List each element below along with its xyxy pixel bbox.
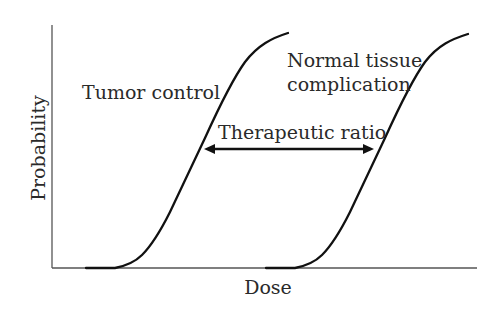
therapeutic-ratio-label: Therapeutic ratio xyxy=(218,121,386,143)
tumor-control-label: Tumor control xyxy=(82,81,220,103)
normal-tissue-label-line1: Normal tissue xyxy=(287,49,422,71)
arrowhead-right-icon xyxy=(363,144,374,154)
normal-tissue-label-line2: complication xyxy=(287,73,411,95)
dose-response-figure: Tumor control Normal tissue complication… xyxy=(0,0,496,313)
y-axis-title: Probability xyxy=(27,95,49,201)
therapeutic-ratio-arrow xyxy=(204,144,374,154)
arrowhead-left-icon xyxy=(204,144,215,154)
tumor-control-curve xyxy=(86,33,288,268)
x-axis-title: Dose xyxy=(244,276,292,298)
chart-svg: Tumor control Normal tissue complication… xyxy=(0,0,496,313)
